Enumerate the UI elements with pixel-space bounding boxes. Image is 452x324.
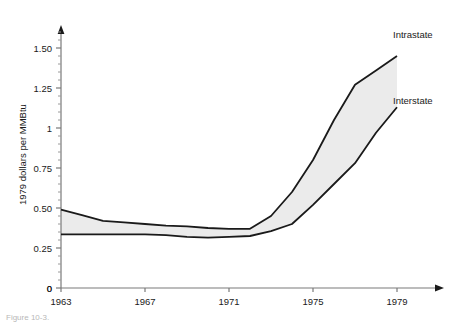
y-tick-label: 0.25: [34, 243, 53, 254]
y-axis: 00.250.500.7511.251.500: [34, 25, 65, 294]
x-tick-label: 1975: [302, 296, 323, 307]
y-tick-label: 1: [47, 123, 52, 134]
series-label-intrastate: Intrastate: [393, 29, 433, 40]
line-chart: 00.250.500.7511.251.500 1963196719711975…: [0, 0, 452, 324]
y-tick-label: 0.50: [34, 203, 53, 214]
x-tick-label: 1979: [386, 296, 407, 307]
x-tick-label: 1967: [134, 296, 155, 307]
x-axis-arrow-icon: [435, 285, 444, 292]
y-axis-title: 1979 dollars per MMBtu: [17, 104, 28, 205]
y-tick-label: 1.25: [34, 83, 53, 94]
series-label-interstate: Interstate: [393, 95, 433, 106]
y-tick-label-group: 00.250.500.7511.251.500: [34, 43, 53, 294]
y-origin-label: 0: [47, 283, 52, 294]
x-tick-label: 1971: [218, 296, 239, 307]
figure-container: 00.250.500.7511.251.500 1963196719711975…: [0, 0, 452, 324]
band-fill-between-series: [61, 56, 397, 238]
x-tick-label: 1963: [50, 296, 71, 307]
figure-caption: Figure 10-3.: [6, 313, 49, 322]
x-tick-label-group: 19631967197119751979: [50, 296, 407, 307]
y-axis-arrow-icon: [58, 25, 65, 34]
x-axis: 19631967197119751979: [50, 285, 444, 307]
y-tick-label: 0.75: [34, 163, 53, 174]
y-major-tick-group: [56, 48, 61, 288]
y-tick-label: 1.50: [34, 43, 53, 54]
